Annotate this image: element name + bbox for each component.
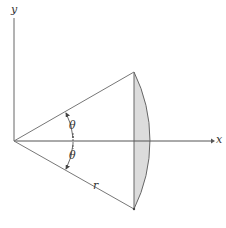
x-axis-arrow-icon	[211, 139, 215, 144]
theta-upper-label: θ	[69, 120, 76, 131]
x-axis-label: x	[216, 134, 222, 145]
diagram-canvas	[0, 0, 226, 228]
theta-lower-label: θ	[69, 150, 76, 161]
bottom-point	[133, 208, 135, 210]
radius-label: r	[93, 180, 98, 191]
y-axis-label: y	[11, 4, 17, 15]
